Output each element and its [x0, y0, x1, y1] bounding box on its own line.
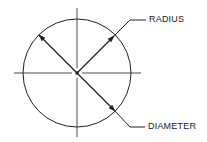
- radius-label: RADIUS: [149, 15, 184, 24]
- radius-line: [77, 36, 114, 73]
- diameter-leader-line: [115, 111, 145, 127]
- diameter-label: DIAMETER: [148, 122, 196, 131]
- radius-leader-line: [114, 20, 146, 36]
- circle-diagram: RADIUS DIAMETER: [0, 0, 207, 142]
